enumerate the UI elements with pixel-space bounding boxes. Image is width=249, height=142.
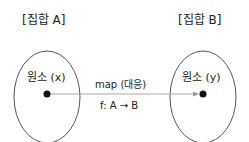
set-b-title: [집합 B] — [178, 10, 221, 27]
mapping-arrowhead-icon — [193, 92, 199, 97]
set-a-title: [집합 A] — [22, 10, 65, 27]
element-y-label: 원소 (y) — [182, 68, 221, 84]
element-x-dot — [44, 91, 51, 98]
element-x-label: 원소 (x) — [27, 68, 66, 84]
map-label: map (대응) — [95, 76, 146, 91]
function-label: f: A → B — [100, 100, 138, 111]
element-y-dot — [200, 91, 207, 98]
